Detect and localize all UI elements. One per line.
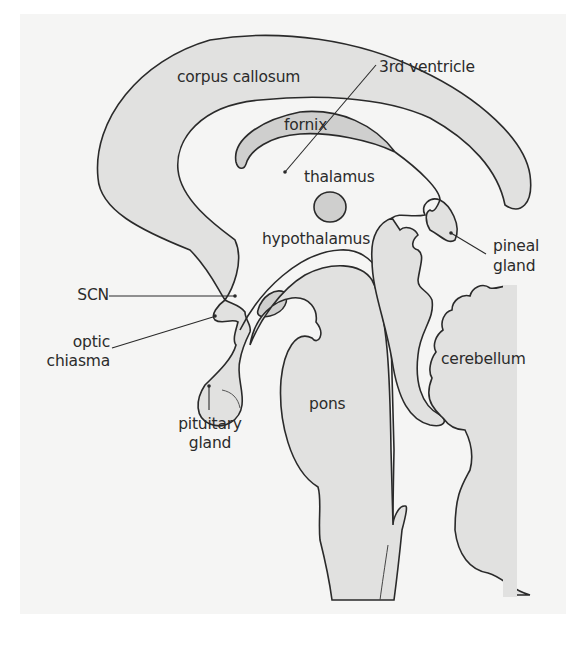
pineal-gland-shape [426, 200, 457, 241]
thalamus-outline [392, 152, 440, 218]
label-scn: SCN [71, 286, 109, 305]
label-pineal-1: pineal [493, 237, 539, 256]
label-pons: pons [309, 395, 345, 414]
label-fornix: fornix [284, 116, 327, 135]
label-hypothalamus: hypothalamus [262, 230, 370, 249]
label-thalamus: thalamus [304, 168, 375, 187]
cerebellum-cut [503, 285, 517, 597]
dot-optic-chiasma [213, 314, 217, 318]
dot-pituitary [207, 384, 211, 388]
label-pineal-2: gland [493, 257, 535, 276]
label-pituitary-1: pituitary [168, 415, 252, 434]
dot-3rd-ventricle [283, 170, 287, 174]
label-optic-1: optic [40, 333, 110, 352]
label-corpus-callosum: corpus callosum [177, 68, 300, 87]
dot-pineal [449, 231, 453, 235]
dot-scn [233, 294, 237, 298]
label-cerebellum: cerebellum [441, 350, 526, 369]
label-pituitary-2: gland [168, 434, 252, 453]
leader-optic-chiasma [112, 317, 213, 348]
leader-pineal [451, 233, 486, 254]
label-3rd-ventricle: 3rd ventricle [379, 58, 475, 77]
thalamus-mass [314, 192, 346, 222]
label-optic-2: chiasma [40, 352, 110, 371]
